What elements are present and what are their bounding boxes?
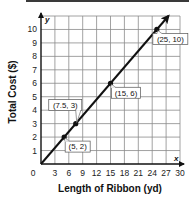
y-axis-title: Total Cost ($)	[7, 60, 18, 123]
point-label: (7.5, 3)	[53, 101, 78, 110]
x-axis-title: Length of Ribbon (yd)	[58, 183, 162, 194]
x-axis-letter: x	[173, 154, 179, 163]
x-tick-label: 15	[106, 168, 116, 178]
y-tick-labels: 12345678910	[28, 24, 38, 155]
x-tick-label: 18	[120, 168, 130, 178]
x-tick-label: 3	[53, 168, 58, 178]
data-series	[41, 16, 168, 164]
y-tick-label: 2	[32, 132, 37, 142]
y-tick-label: 10	[28, 24, 38, 34]
y-tick-label: 1	[32, 146, 37, 156]
y-tick-label: 5	[32, 92, 37, 102]
series-line	[41, 16, 168, 164]
line-chart: 12345678910 036912151821242730 (5, 2)(7.…	[0, 0, 189, 197]
x-tick-label: 9	[80, 168, 85, 178]
y-tick-label: 9	[32, 38, 37, 48]
y-axis-letter: y	[44, 15, 50, 24]
x-tick-label: 6	[66, 168, 71, 178]
x-tick-labels: 036912151821242730	[31, 168, 185, 178]
x-tick-label: 30	[175, 168, 185, 178]
x-tick-label: 21	[134, 168, 144, 178]
y-tick-label: 7	[32, 65, 37, 75]
point-label: (15, 6)	[115, 89, 138, 98]
x-tick-label: 0	[31, 168, 36, 178]
y-tick-label: 3	[32, 119, 37, 129]
y-tick-label: 4	[32, 105, 37, 115]
y-tick-label: 8	[32, 51, 37, 61]
data-point	[73, 121, 78, 126]
y-tick-label: 6	[32, 78, 37, 88]
x-tick-label: 24	[147, 168, 157, 178]
point-labels: (5, 2)(7.5, 3)(15, 6)(25, 10)	[49, 30, 188, 152]
point-label: (25, 10)	[157, 35, 184, 44]
x-tick-label: 12	[92, 168, 102, 178]
point-label: (5, 2)	[69, 142, 88, 151]
x-tick-label: 27	[161, 168, 171, 178]
